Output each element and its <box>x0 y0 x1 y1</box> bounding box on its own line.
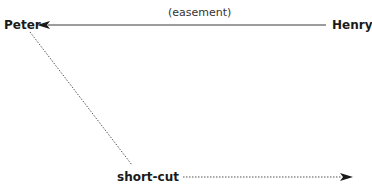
shortcut-arrow <box>183 173 353 181</box>
dotted-diagonal-line <box>30 32 132 165</box>
node-henry: Henry <box>332 19 372 31</box>
edge-label-easement: (easement) <box>168 7 231 18</box>
arrowhead-right-icon <box>340 173 353 181</box>
node-peter: Peter <box>4 19 41 31</box>
easement-arrow <box>37 21 326 29</box>
diagram-canvas <box>0 0 372 190</box>
node-short-cut: short-cut <box>117 171 179 183</box>
